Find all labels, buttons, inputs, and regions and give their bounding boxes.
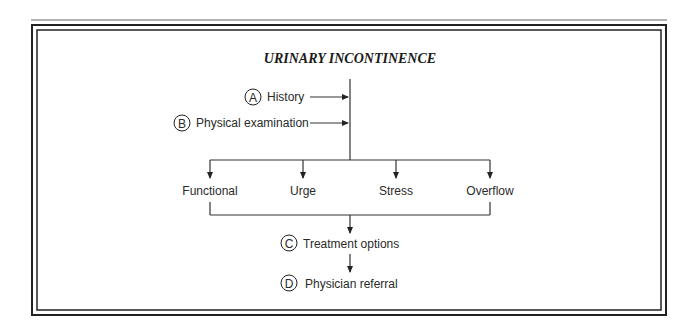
merge-bracket [210,202,490,233]
svg-text:A: A [249,91,257,105]
input-history: A History [245,89,348,105]
step-treatment-options: C Treatment options [281,235,399,251]
type-overflow: Overflow [466,184,514,198]
svg-text:History: History [267,90,304,104]
diagram-title: URINARY INCONTINENCE [264,51,436,66]
flowchart-canvas: URINARY INCONTINENCE A History B Physica… [0,0,697,333]
svg-text:B: B [178,117,186,131]
input-physical-examination: B Physical examination [174,115,348,131]
svg-text:Physical examination: Physical examination [196,116,309,130]
svg-text:C: C [285,237,294,251]
step-physician-referral: D Physician referral [281,275,398,291]
svg-text:D: D [285,277,294,291]
svg-text:Treatment options: Treatment options [303,237,399,251]
type-branches [210,160,490,178]
type-stress: Stress [379,184,413,198]
type-functional: Functional [182,184,237,198]
type-urge: Urge [290,184,316,198]
svg-text:Physician referral: Physician referral [305,277,398,291]
